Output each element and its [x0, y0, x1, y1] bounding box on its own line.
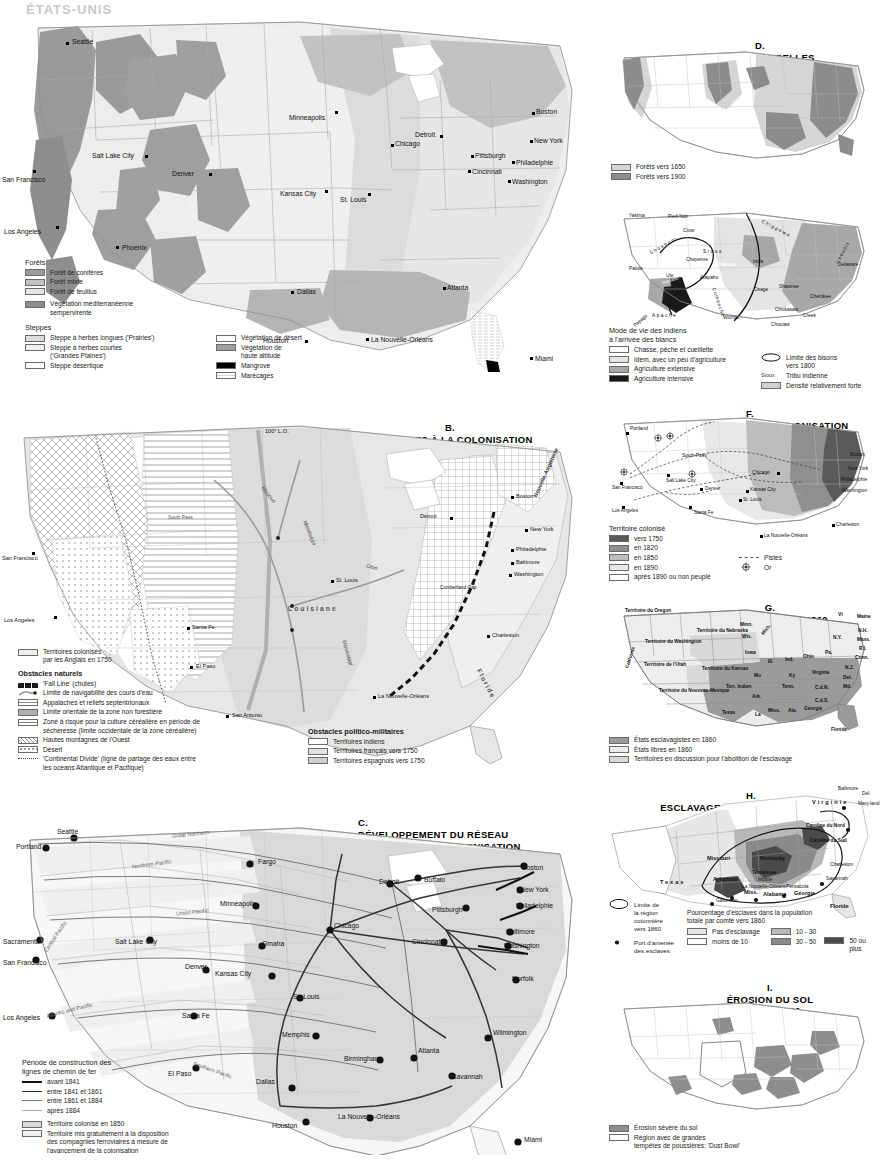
state-label: Ky: [789, 673, 795, 678]
swatch-50-plus: [824, 937, 844, 944]
legend-item: Forêts vers 1900: [611, 173, 811, 181]
city-label: Denver: [185, 963, 207, 970]
map-d-forests[interactable]: [606, 48, 878, 168]
city-label: San Francisco: [3, 959, 46, 966]
gap-label-cumberland: Cumberland Gap: [440, 585, 477, 590]
swatch-free-states: [609, 746, 629, 753]
legend-item: Végétation de haute altitude: [216, 344, 355, 361]
swatch-under-10: [687, 938, 707, 945]
legend-item: en 1820: [609, 544, 739, 552]
city-label: Minneapolis: [289, 114, 325, 121]
city-label: Mobile: [758, 877, 772, 882]
legend-item: Port d'amenée des esclaves: [609, 939, 687, 955]
swatch-conifer: [25, 269, 45, 276]
pass-label: South Pass: [682, 453, 707, 458]
swatch-desert-veg: [216, 335, 236, 342]
map-e-natives[interactable]: [606, 205, 878, 330]
swatch-10-30: [771, 928, 791, 935]
city-label: Detroit: [420, 514, 436, 520]
state-label: Mary-land: [858, 801, 879, 806]
state-label: Territoire de l'Utah: [644, 662, 686, 667]
gold-icon: [739, 564, 759, 571]
city-label: Birmingham: [344, 1055, 380, 1062]
legend-item: Forêts vers 1650: [611, 163, 811, 171]
tribe-label: Pawnee: [718, 262, 736, 267]
legend-item: Steppe à herbes longues ('Prairies'): [25, 334, 202, 342]
city-label: Boston: [522, 864, 543, 871]
state-label: Alabama: [763, 892, 786, 898]
legend-item: moins de 10: [687, 938, 763, 946]
state-label: Arkansas: [713, 877, 738, 883]
city-label: Salt Lake City: [115, 938, 157, 945]
state-label: Texas: [660, 880, 685, 886]
state-label: Terr. Indien: [726, 684, 752, 689]
legend-item: Territoires en discussion pour l'aboliti…: [609, 755, 881, 763]
swatch-appalachians: [18, 699, 38, 706]
city-label: La Nouvelle-Orléans: [371, 336, 433, 343]
city-label: Kansas City: [280, 190, 316, 197]
river-limit-icon: [18, 689, 38, 696]
city-label: Los Angeles: [4, 228, 41, 235]
city-label: Boston: [536, 108, 557, 115]
city-label: Los Angeles: [4, 618, 34, 624]
legend-item: Appalaches et reliefs septentrionaux: [18, 699, 318, 707]
city-label: Detroit: [379, 878, 399, 885]
city-label: Phoenix: [122, 244, 147, 251]
city-label: Charleston: [492, 633, 519, 639]
map-i-erosion[interactable]: [606, 995, 878, 1120]
legend-head-rail-periods: Période de construction des lignes de ch…: [22, 1058, 282, 1076]
legend-item: après 1890 ou non peuplé: [609, 573, 739, 581]
legend-item: Hautes montagnes de l'Ouest: [18, 736, 318, 744]
swatch-forest-1900: [611, 173, 631, 180]
legend-item: États esclavagistes en 1860: [609, 736, 881, 744]
city-label: Chicago: [334, 922, 359, 929]
state-label: Virginie: [812, 670, 830, 675]
city-label: Washington: [512, 178, 548, 185]
city-label: Norfolk: [512, 975, 534, 982]
map-c-legend: Période de construction des lignes de ch…: [22, 1058, 282, 1156]
legend-item: avant 1841: [22, 1078, 282, 1086]
legend-item: Pas d'esclavage: [687, 928, 763, 936]
legend-item: 50 ou plus: [824, 937, 879, 954]
legend-item: Forêt de feuillus: [25, 288, 355, 296]
tribe-label: Apache: [652, 313, 677, 318]
meridian-label: 100° L.O.: [265, 429, 289, 435]
city-label: Baltimore: [838, 786, 858, 791]
tribe-label: Pied-Noir: [668, 214, 688, 219]
state-label: Miss.: [744, 890, 758, 896]
swatch-english-colonies: [18, 649, 38, 656]
city-label: San Francisco: [2, 176, 45, 183]
city-label: Miami: [524, 1136, 542, 1143]
swatch-1850: [609, 554, 629, 561]
state-label: Mass.: [857, 637, 870, 642]
swatch-1820: [609, 545, 629, 552]
swatch-hunting-agri: [609, 356, 629, 363]
city-label: Pittsburgh: [432, 906, 463, 913]
swatch-desertsteppe: [25, 362, 45, 369]
tribe-label: Cherokee: [810, 294, 831, 299]
swatch-forest-1650: [611, 164, 631, 171]
city-label: St. Louis: [293, 993, 319, 1000]
swatch-agri-intensive: [609, 375, 629, 382]
map-h-legend: Limite de la région cotonnière vers 1860…: [609, 901, 881, 956]
city-label: St. Louis: [336, 578, 358, 584]
rail-1841-1861-icon: [22, 1088, 42, 1095]
tribe-label: Shawnee: [779, 284, 799, 289]
legend-item: Forêt de conifères: [25, 269, 355, 277]
state-label: Ark.: [752, 694, 761, 699]
city-label: Portland: [630, 426, 648, 431]
state-label: Minn.: [740, 622, 753, 627]
legend-item: Limite des bisons vers 1800: [761, 354, 879, 371]
city-label: Kansas City: [215, 970, 251, 977]
legend-item: Forêt mixte: [25, 278, 355, 286]
legend-item: Limite de navigabilité des cours d'eau: [18, 689, 318, 697]
city-label: Boston: [516, 494, 533, 500]
state-label: Territoire du Nebraska: [697, 628, 748, 633]
legend-item: Agriculture intensive: [609, 375, 761, 383]
pass-label-south: South Pass: [168, 515, 193, 520]
city-label: Savannah: [826, 876, 848, 881]
legend-head-polmil: Obstacles politico-militaires: [308, 727, 528, 736]
city-label: New York: [520, 886, 549, 893]
legend-item: Sioux Tribu indienne: [761, 372, 879, 380]
state-label: N.Y.: [833, 635, 842, 640]
